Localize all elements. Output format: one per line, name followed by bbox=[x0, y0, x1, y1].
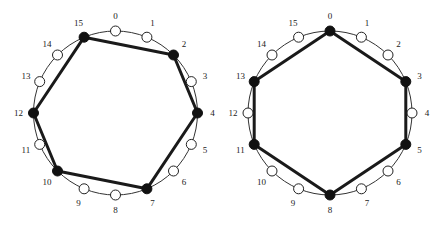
filled-node bbox=[249, 139, 259, 149]
open-node bbox=[383, 50, 393, 60]
node-label: 7 bbox=[150, 198, 155, 208]
node-label: 2 bbox=[182, 39, 187, 49]
open-node bbox=[53, 50, 63, 60]
open-node bbox=[294, 184, 304, 194]
filled-node bbox=[193, 108, 203, 118]
open-node bbox=[35, 139, 45, 149]
right-ring-diagram: 0123456789101112131415 bbox=[229, 11, 430, 215]
open-node bbox=[356, 32, 366, 42]
filled-node bbox=[325, 190, 335, 200]
node-label: 0 bbox=[113, 11, 118, 21]
open-node bbox=[267, 166, 277, 176]
node-label: 8 bbox=[328, 205, 333, 215]
open-node bbox=[294, 32, 304, 42]
node-label: 3 bbox=[203, 71, 208, 81]
node-label: 10 bbox=[257, 177, 267, 187]
node-label: 4 bbox=[210, 108, 215, 118]
open-node bbox=[79, 184, 89, 194]
node-label: 3 bbox=[417, 71, 422, 81]
node-label: 10 bbox=[42, 177, 52, 187]
filled-node bbox=[249, 77, 259, 87]
node-label: 8 bbox=[113, 205, 118, 215]
node-label: 6 bbox=[396, 177, 401, 187]
filled-node bbox=[401, 139, 411, 149]
node-label: 13 bbox=[236, 71, 246, 81]
filled-node bbox=[53, 166, 63, 176]
open-node bbox=[186, 139, 196, 149]
node-label: 1 bbox=[365, 18, 370, 28]
node-label: 9 bbox=[76, 198, 81, 208]
node-label: 11 bbox=[22, 145, 31, 155]
open-node bbox=[267, 50, 277, 60]
node-label: 2 bbox=[396, 39, 401, 49]
filled-node bbox=[169, 50, 179, 60]
node-label: 0 bbox=[328, 11, 333, 21]
open-node bbox=[243, 108, 253, 118]
node-label: 7 bbox=[365, 198, 370, 208]
node-label: 12 bbox=[229, 108, 238, 118]
open-node bbox=[169, 166, 179, 176]
node-label: 15 bbox=[74, 18, 84, 28]
open-node bbox=[186, 77, 196, 87]
ring-diagrams: 0123456789101112131415 01234567891011121… bbox=[0, 0, 444, 226]
open-node bbox=[142, 32, 152, 42]
node-label: 13 bbox=[21, 71, 31, 81]
node-label: 9 bbox=[291, 198, 296, 208]
filled-node bbox=[29, 108, 39, 118]
node-label: 15 bbox=[288, 18, 298, 28]
open-node bbox=[383, 166, 393, 176]
open-node bbox=[356, 184, 366, 194]
left-ring-diagram: 0123456789101112131415 bbox=[14, 11, 215, 215]
open-node bbox=[35, 77, 45, 87]
node-label: 6 bbox=[182, 177, 187, 187]
node-label: 5 bbox=[417, 145, 422, 155]
node-label: 11 bbox=[236, 145, 245, 155]
node-label: 4 bbox=[425, 108, 430, 118]
filled-node bbox=[142, 184, 152, 194]
node-label: 14 bbox=[42, 39, 52, 49]
node-label: 1 bbox=[150, 18, 155, 28]
filled-node bbox=[325, 26, 335, 36]
node-label: 12 bbox=[14, 108, 23, 118]
open-node bbox=[111, 190, 121, 200]
filled-node bbox=[79, 32, 89, 42]
open-node bbox=[111, 26, 121, 36]
node-label: 5 bbox=[203, 145, 208, 155]
filled-node bbox=[401, 77, 411, 87]
node-label: 14 bbox=[257, 39, 267, 49]
open-node bbox=[407, 108, 417, 118]
